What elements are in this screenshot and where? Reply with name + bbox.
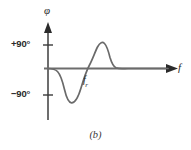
phase-response-curve xyxy=(48,42,168,102)
tick-label-negative-90: −90° xyxy=(11,89,30,99)
figure-caption: (b) xyxy=(0,130,191,141)
phase-response-figure: φ f +90° −90° fr (b) xyxy=(0,0,191,150)
y-axis-arrow-icon xyxy=(44,22,52,33)
x-axis-label: f xyxy=(178,62,181,73)
resonant-frequency-subscript: r xyxy=(85,81,88,89)
resonant-frequency-label: fr xyxy=(83,75,89,88)
phase-vs-frequency-plot xyxy=(0,0,191,150)
tick-label-positive-90: +90° xyxy=(11,39,30,49)
y-axis-label: φ xyxy=(44,5,50,16)
